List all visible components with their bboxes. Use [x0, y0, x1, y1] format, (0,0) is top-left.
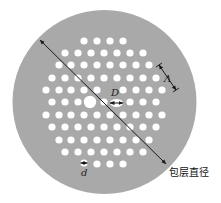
air-hole — [93, 136, 100, 143]
air-hole — [119, 37, 126, 44]
core-hole — [84, 96, 96, 108]
air-hole — [126, 49, 133, 56]
cladding-diameter-label: 包层直径 — [169, 166, 209, 178]
air-hole — [67, 111, 74, 118]
air-hole — [145, 111, 152, 118]
air-hole — [113, 148, 120, 155]
air-hole — [48, 98, 55, 105]
air-hole — [61, 98, 68, 105]
air-hole — [119, 86, 126, 93]
air-hole — [55, 111, 62, 118]
air-hole — [87, 49, 94, 56]
air-hole — [126, 98, 133, 105]
air-hole — [100, 148, 107, 155]
air-hole — [106, 111, 113, 118]
air-hole — [42, 111, 49, 118]
air-hole — [100, 98, 107, 105]
air-hole — [145, 136, 152, 143]
air-hole — [158, 86, 165, 93]
pitch-label: Λ — [163, 73, 171, 84]
air-hole — [80, 86, 87, 93]
air-hole — [74, 49, 81, 56]
air-hole — [80, 136, 87, 143]
air-hole — [132, 86, 139, 93]
air-hole — [42, 86, 49, 93]
air-hole — [119, 61, 126, 68]
air-hole — [100, 74, 107, 81]
air-hole — [139, 49, 146, 56]
air-hole — [126, 123, 133, 130]
air-hole — [158, 111, 165, 118]
air-hole — [93, 86, 100, 93]
air-hole — [126, 148, 133, 155]
air-hole — [139, 98, 146, 105]
air-hole — [119, 136, 126, 143]
air-hole — [74, 98, 81, 105]
air-hole — [61, 148, 68, 155]
air-hole — [100, 123, 107, 130]
air-hole — [61, 74, 68, 81]
air-hole — [152, 123, 159, 130]
air-hole — [55, 61, 62, 68]
air-hole — [106, 160, 113, 167]
air-hole — [145, 61, 152, 68]
air-hole — [132, 111, 139, 118]
air-hole — [74, 148, 81, 155]
air-hole — [74, 123, 81, 130]
air-hole — [119, 160, 126, 167]
air-hole — [48, 123, 55, 130]
air-hole — [80, 37, 87, 44]
air-hole — [100, 49, 107, 56]
air-hole — [61, 123, 68, 130]
air-hole — [87, 148, 94, 155]
air-hole — [93, 160, 100, 167]
air-hole — [87, 123, 94, 130]
hole-diameter-annotation: d — [80, 159, 87, 178]
air-hole — [106, 136, 113, 143]
air-hole — [80, 61, 87, 68]
air-hole — [61, 49, 68, 56]
air-hole — [93, 61, 100, 68]
air-hole — [67, 86, 74, 93]
air-hole — [152, 74, 159, 81]
air-hole — [48, 74, 55, 81]
core-diameter-label: D — [110, 87, 119, 98]
air-hole — [55, 86, 62, 93]
air-hole — [106, 37, 113, 44]
air-hole — [145, 86, 152, 93]
air-hole — [87, 74, 94, 81]
air-hole — [93, 37, 100, 44]
air-hole — [113, 49, 120, 56]
air-hole — [106, 61, 113, 68]
air-hole — [132, 61, 139, 68]
air-hole — [152, 98, 159, 105]
pcf-cross-section-diagram: 包层直径 Λ D d — [0, 0, 221, 203]
hole-diameter-label: d — [81, 167, 87, 178]
air-hole — [126, 74, 133, 81]
air-hole — [139, 123, 146, 130]
air-hole — [55, 136, 62, 143]
air-hole — [139, 74, 146, 81]
air-hole — [139, 148, 146, 155]
air-hole — [119, 111, 126, 118]
air-hole — [67, 136, 74, 143]
air-hole — [113, 123, 120, 130]
air-hole — [80, 111, 87, 118]
air-hole — [113, 74, 120, 81]
air-hole — [93, 111, 100, 118]
